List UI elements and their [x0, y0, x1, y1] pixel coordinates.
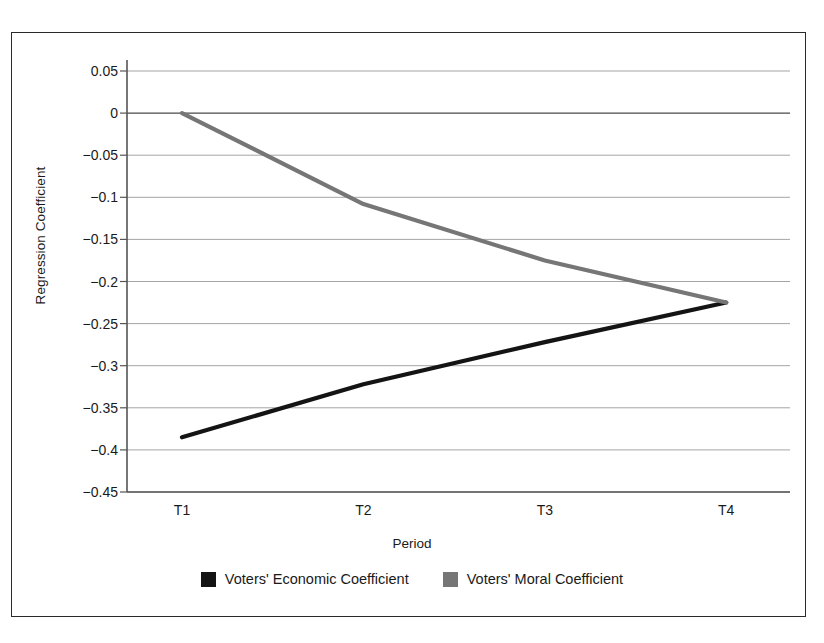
- series-line-0: [182, 303, 726, 438]
- y-tick-label: 0.05: [40, 63, 118, 79]
- legend-item-economic[interactable]: Voters' Economic Coefficient: [201, 571, 409, 587]
- series-line-1: [182, 113, 726, 302]
- y-tick-label: −0.05: [40, 147, 118, 163]
- figure-root: Regression Coefficient 0.050−0.05−0.1−0.…: [0, 0, 824, 643]
- y-tick-label: 0: [40, 105, 118, 121]
- x-tick-label: T3: [537, 502, 553, 518]
- legend-swatch-economic: [201, 572, 216, 587]
- x-tick-label: T4: [718, 502, 734, 518]
- y-axis-ticks: [120, 71, 127, 492]
- x-tick-label: T1: [174, 502, 190, 518]
- x-axis-title: Period: [0, 536, 824, 551]
- y-tick-label: −0.4: [40, 442, 118, 458]
- y-tick-label: −0.15: [40, 231, 118, 247]
- legend-item-moral[interactable]: Voters' Moral Coefficient: [443, 571, 623, 587]
- y-tick-label: −0.2: [40, 274, 118, 290]
- y-tick-label: −0.1: [40, 189, 118, 205]
- legend-label-economic: Voters' Economic Coefficient: [225, 571, 409, 587]
- series-lines: [182, 113, 726, 437]
- legend-swatch-moral: [443, 572, 458, 587]
- y-tick-label: −0.25: [40, 316, 118, 332]
- y-tick-label: −0.35: [40, 400, 118, 416]
- legend-label-moral: Voters' Moral Coefficient: [467, 571, 623, 587]
- chart-legend: Voters' Economic Coefficient Voters' Mor…: [0, 571, 824, 587]
- y-tick-label: −0.45: [40, 484, 118, 500]
- y-tick-label: −0.3: [40, 358, 118, 374]
- x-tick-label: T2: [355, 502, 371, 518]
